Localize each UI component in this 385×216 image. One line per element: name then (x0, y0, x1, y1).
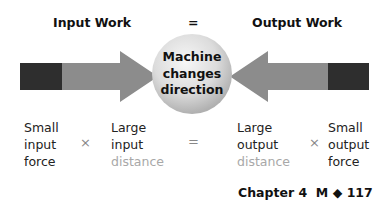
input-arrow (20, 51, 158, 102)
input-force-label: Small input force (24, 119, 59, 170)
input-force-line-2: input (24, 136, 59, 153)
input-distance-line-1: Large (111, 119, 164, 136)
page-number: 117 (347, 185, 373, 200)
circle-line-3: direction (152, 82, 232, 99)
circle-line-1: Machine (152, 49, 232, 66)
output-distance-line-2: output (237, 136, 290, 153)
input-force-line-3: force (24, 153, 59, 170)
times-operator-2: × (309, 135, 320, 150)
output-distance-label: Large output distance (237, 119, 290, 170)
input-distance-line-2: input (111, 136, 164, 153)
output-force-line-3: force (328, 153, 369, 170)
output-force-line-2: output (328, 136, 369, 153)
output-force-line-1: Small (328, 119, 369, 136)
circle-line-2: changes (152, 66, 232, 83)
times-operator-1: × (80, 135, 91, 150)
output-force-label: Small output force (328, 119, 369, 170)
output-distance-line-1: Large (237, 119, 290, 136)
input-force-line-1: Small (24, 119, 59, 136)
machine-circle-label: Machine changes direction (152, 49, 232, 99)
diagram-graphics (0, 0, 385, 216)
output-distance-line-3: distance (237, 153, 290, 170)
input-distance-label: Large input distance (111, 119, 164, 170)
equals-operator: = (188, 134, 199, 149)
section-letter: M (316, 185, 328, 200)
output-arrow (230, 51, 369, 102)
input-distance-line-3: distance (111, 153, 164, 170)
chapter-label: Chapter 4 (238, 185, 307, 200)
page-footer: Chapter 4 M ◆ 117 (238, 185, 373, 200)
diamond-icon: ◆ (333, 185, 343, 200)
